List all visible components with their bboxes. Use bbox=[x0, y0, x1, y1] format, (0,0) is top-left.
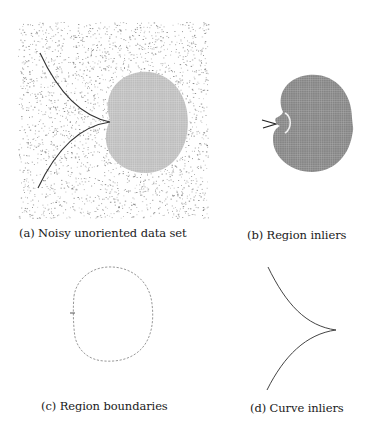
region-inliers-disc bbox=[273, 75, 353, 172]
caption-c: (c) Region boundaries bbox=[41, 399, 168, 413]
disc-region bbox=[106, 72, 188, 173]
subfigure-b bbox=[262, 75, 353, 172]
curve-inliers bbox=[267, 267, 336, 390]
subfigure-a bbox=[18, 22, 209, 219]
caption-b: (b) Region inliers bbox=[247, 228, 346, 242]
region-boundary bbox=[73, 267, 152, 361]
caption-a: (a) Noisy unoriented data set bbox=[19, 226, 187, 240]
subfigure-d bbox=[267, 267, 336, 390]
subfigure-c bbox=[70, 267, 153, 361]
figure: (a) Noisy unoriented data set (b) Region… bbox=[0, 0, 383, 442]
caption-d: (d) Curve inliers bbox=[250, 401, 344, 415]
figure-canvas bbox=[0, 0, 383, 442]
curve-stub bbox=[262, 120, 276, 128]
